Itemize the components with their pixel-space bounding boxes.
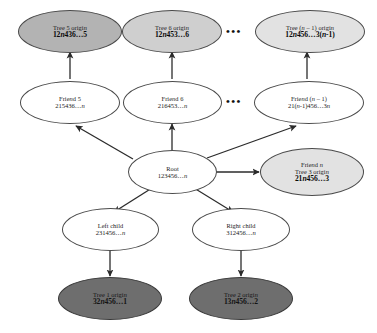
- tree-n-minus-1-origin-node[interactable]: Tree (n – 1) origin 12n456…3(n-1): [255, 10, 365, 53]
- tree-2-origin-node[interactable]: Tree 2 origin 13n456…2: [189, 277, 293, 320]
- left-child-code: 231456…n: [96, 229, 125, 236]
- tree-1-origin-node[interactable]: Tree 1 origin 32n456…1: [58, 277, 162, 320]
- tree-1-origin-code: 32n456…1: [93, 298, 127, 307]
- ellipsis-friend-row: •••: [226, 96, 242, 107]
- tree-3-origin-code: 21n456…3: [295, 175, 329, 184]
- ellipsis-tree-row: •••: [226, 26, 242, 37]
- tree-5-origin-node[interactable]: Tree 5 origin 12n436…5: [18, 10, 122, 53]
- friend-5-node[interactable]: Friend 5 215436…n: [20, 81, 120, 124]
- friend-6-label: Friend 6: [162, 95, 184, 102]
- root-label: Root: [166, 165, 179, 172]
- friend-5-label: Friend 5: [59, 95, 81, 102]
- left-child-label: Left child: [98, 222, 124, 229]
- friend-6-node[interactable]: Friend 6 216453…n: [123, 81, 222, 124]
- tree-n-minus-1-origin-code: 12n456…3(n-1): [285, 31, 335, 40]
- edge-root-to-friend5: [76, 126, 133, 159]
- root-node[interactable]: Root 123456…n: [128, 150, 217, 194]
- friend-n-label: Friend n: [301, 161, 323, 168]
- tree-6-origin-code: 12n453…6: [155, 31, 189, 40]
- right-child-node[interactable]: Right child 312456…n: [192, 208, 290, 251]
- friend-n-minus-1-code: 21(n-1)456…3n: [288, 102, 330, 109]
- friend-n-minus-1-node[interactable]: Friend (n – 1) 21(n-1)456…3n: [254, 81, 364, 124]
- left-child-node[interactable]: Left child 231456…n: [62, 208, 159, 251]
- tree-6-origin-node[interactable]: Tree 6 origin 12n453…6: [122, 10, 222, 53]
- root-code: 123456…n: [158, 172, 187, 179]
- friend-n-tree-3-origin-node[interactable]: Friend n Tree 3 origin 21n456…3: [260, 148, 364, 196]
- friend-6-code: 216453…n: [158, 102, 187, 109]
- diagram-canvas: Tree 5 origin 12n436…5 Tree 6 origin 12n…: [0, 0, 377, 333]
- friend-n-minus-1-label: Friend (n – 1): [291, 95, 327, 102]
- friend-5-code: 215436…n: [55, 102, 84, 109]
- tree-2-origin-code: 13n456…2: [224, 298, 258, 307]
- right-child-label: Right child: [226, 222, 255, 229]
- tree-5-origin-code: 12n436…5: [53, 31, 87, 40]
- right-child-code: 312456…n: [226, 229, 255, 236]
